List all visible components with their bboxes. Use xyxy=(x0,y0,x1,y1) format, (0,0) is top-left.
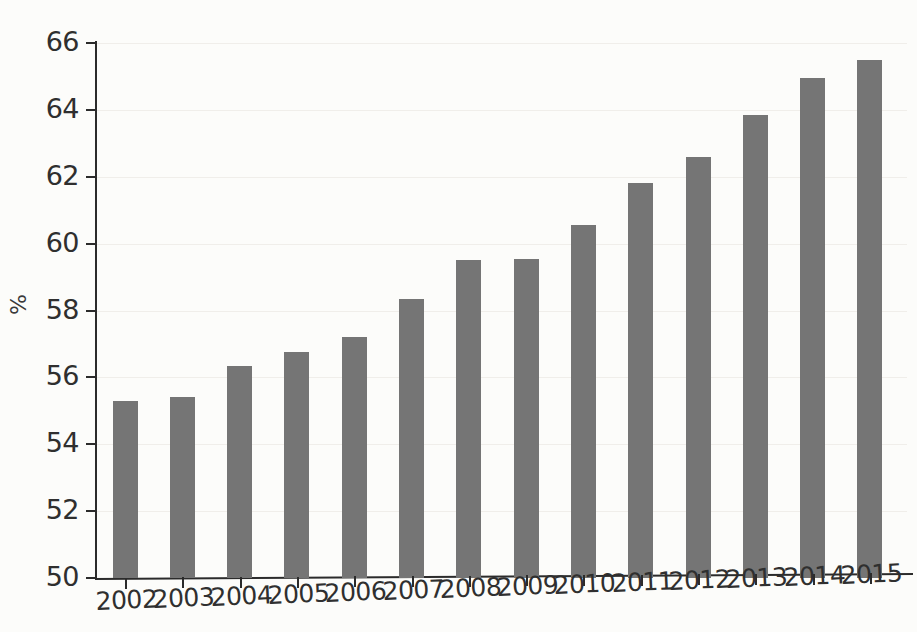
y-tick-mark xyxy=(86,109,96,111)
gridline xyxy=(97,444,907,445)
x-tick-label: 2010 xyxy=(553,568,616,600)
bar xyxy=(284,352,309,578)
y-tick-mark xyxy=(86,577,96,579)
y-tick-label: 60 xyxy=(46,227,79,258)
bar xyxy=(170,397,195,578)
y-tick-mark xyxy=(86,310,96,312)
plot-area: 505254565860626466 xyxy=(95,43,907,578)
bar xyxy=(686,157,711,578)
y-tick-label: 56 xyxy=(46,360,79,391)
gridline xyxy=(97,244,907,245)
x-tick-label: 2013 xyxy=(725,562,788,594)
gridline xyxy=(97,377,907,378)
y-tick-mark xyxy=(86,510,96,512)
y-tick-label: 58 xyxy=(46,294,79,325)
gridline xyxy=(97,311,907,312)
y-tick-mark xyxy=(86,176,96,178)
gridline xyxy=(97,177,907,178)
y-tick-label: 54 xyxy=(46,427,79,458)
bar xyxy=(571,225,596,578)
x-tick-label: 2002 xyxy=(95,584,158,616)
x-tick-label: 2005 xyxy=(267,578,330,610)
x-tick-label: 2011 xyxy=(611,566,674,598)
y-tick-label: 66 xyxy=(46,26,79,57)
bar xyxy=(514,259,539,578)
gridline xyxy=(97,43,907,44)
y-tick-mark xyxy=(86,243,96,245)
x-tick-label: 2003 xyxy=(152,582,215,614)
bar xyxy=(456,260,481,578)
x-tick-label: 2015 xyxy=(840,558,903,590)
x-tick-label: 2012 xyxy=(668,564,731,596)
bar xyxy=(743,115,768,578)
y-tick-label: 62 xyxy=(46,160,79,191)
x-tick-label: 2009 xyxy=(496,570,559,602)
bar xyxy=(628,183,653,578)
y-tick-mark xyxy=(86,42,96,44)
bar xyxy=(342,337,367,578)
bar xyxy=(800,78,825,578)
bar xyxy=(227,366,252,578)
y-tick-label: 52 xyxy=(46,494,79,525)
bar xyxy=(399,299,424,578)
y-tick-label: 64 xyxy=(46,93,79,124)
x-tick-label: 2006 xyxy=(324,576,387,608)
gridline xyxy=(97,110,907,111)
chart-page: % 505254565860626466 2002200320042005200… xyxy=(0,0,917,632)
bar xyxy=(857,60,882,578)
y-tick-label: 50 xyxy=(46,561,79,592)
x-tick-label: 2008 xyxy=(439,572,502,604)
y-tick-mark xyxy=(86,443,96,445)
y-tick-mark xyxy=(86,376,96,378)
x-tick-label: 2014 xyxy=(783,560,846,592)
gridline xyxy=(97,511,907,512)
x-tick-label: 2004 xyxy=(210,580,273,612)
x-tick-label: 2007 xyxy=(382,574,445,606)
y-axis-label: % xyxy=(6,294,31,315)
bar xyxy=(113,401,138,578)
